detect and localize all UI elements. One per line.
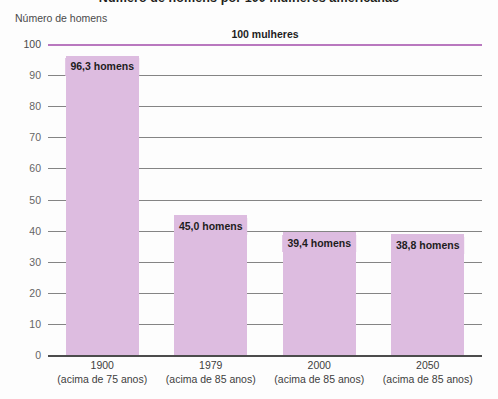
y-axis-tick: 80: [29, 101, 41, 112]
bar[interactable]: 38,8 homens: [391, 234, 464, 355]
x-axis-category-sublabel: (acima de 75 anos): [48, 372, 157, 386]
bar[interactable]: 96,3 homens: [66, 56, 139, 355]
bar-value-label: 38,8 homens: [391, 237, 465, 254]
y-axis-tick: 50: [29, 194, 41, 205]
gridline: 100: [48, 44, 482, 46]
x-axis-category-sublabel: (acima de 85 anos): [265, 372, 374, 386]
x-axis-category-label: 1979(acima de 85 anos): [157, 358, 266, 386]
y-axis-tick: 100: [23, 39, 41, 50]
bar-value-label: 96,3 homens: [65, 58, 139, 75]
x-axis-category-label: 2050(acima de 85 anos): [374, 358, 483, 386]
y-axis-tick: 60: [29, 163, 41, 174]
plot-area: 1009080706050403020100 96,3 homens45,0 h…: [48, 44, 482, 355]
x-axis-category-year: 1979: [157, 358, 266, 372]
y-axis-tick: 90: [29, 70, 41, 81]
x-axis-category-sublabel: (acima de 85 anos): [157, 372, 266, 386]
chart-container: Número de homens por 100 mulheres americ…: [0, 0, 498, 399]
x-axis-category-label: 2000(acima de 85 anos): [265, 358, 374, 386]
y-axis-tick: 10: [29, 319, 41, 330]
y-axis-tick: 30: [29, 256, 41, 267]
y-axis-tick: 20: [29, 288, 41, 299]
x-axis-labels-group: 1900(acima de 75 anos)1979(acima de 85 a…: [48, 358, 482, 398]
chart-title: Número de homens por 100 mulheres americ…: [0, 0, 498, 5]
bar[interactable]: 39,4 homens: [283, 232, 356, 355]
y-axis-tick: 70: [29, 132, 41, 143]
bar[interactable]: 45,0 homens: [174, 215, 247, 355]
reference-line-label: 100 mulheres: [48, 28, 482, 40]
x-axis-category-year: 2000: [265, 358, 374, 372]
y-axis-tick: 0: [35, 350, 41, 361]
x-axis-category-year: 2050: [374, 358, 483, 372]
x-axis-category-label: 1900(acima de 75 anos): [48, 358, 157, 386]
y-axis-label: Número de homens: [15, 12, 107, 24]
x-axis-category-year: 1900: [48, 358, 157, 372]
bar-value-label: 39,4 homens: [282, 235, 356, 252]
x-axis-category-sublabel: (acima de 85 anos): [374, 372, 483, 386]
gridline: 0: [48, 355, 482, 357]
bar-value-label: 45,0 homens: [174, 218, 248, 235]
y-axis-tick: 40: [29, 225, 41, 236]
